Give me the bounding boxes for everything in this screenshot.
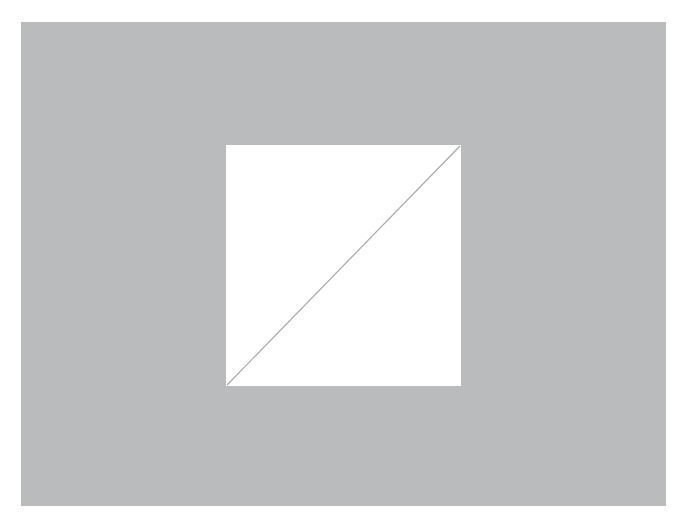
diagonal-line [226,145,461,386]
white-square [226,145,461,386]
